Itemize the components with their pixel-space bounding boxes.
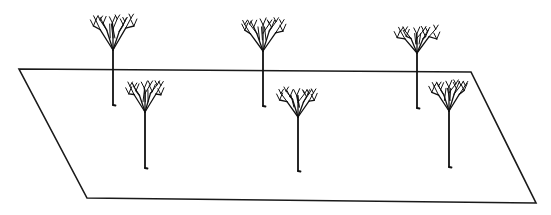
tree-root-foot xyxy=(263,106,266,107)
tree-plot-illustration xyxy=(0,0,551,215)
tree-root-foot xyxy=(113,105,116,106)
tree-crown-branches xyxy=(277,87,318,117)
tree-root-foot xyxy=(145,168,148,169)
tree-crown-branches xyxy=(429,80,468,111)
tree-front-2 xyxy=(277,87,318,172)
tree-root-foot xyxy=(417,108,420,109)
tree-root-foot xyxy=(298,171,301,172)
tree-front-3 xyxy=(429,80,468,168)
tree-back-3 xyxy=(394,25,440,108)
tree-root-foot xyxy=(449,167,452,168)
tree-crown-branches xyxy=(242,18,286,51)
trees-group xyxy=(90,14,467,171)
tree-back-2 xyxy=(242,18,286,107)
tree-crown-branches xyxy=(126,81,164,112)
figure-canvas xyxy=(0,0,551,215)
tree-front-1 xyxy=(126,81,164,169)
tree-crown-branches xyxy=(90,14,136,50)
tree-crown-branches xyxy=(394,25,440,53)
